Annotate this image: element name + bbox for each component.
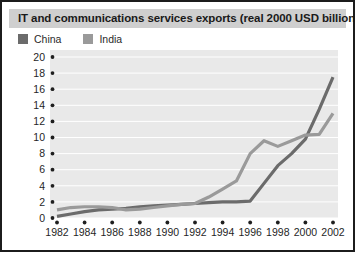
svg-text:1986: 1986 [101,226,125,238]
svg-text:8: 8 [39,147,45,159]
svg-text:6: 6 [39,163,45,175]
chart-canvas: 02468101214161820 1982198419861988199019… [9,50,348,246]
chart-figure: IT and communications services exports (… [0,0,355,252]
legend-label-china: China [34,33,61,45]
svg-text:1990: 1990 [156,226,180,238]
svg-text:14: 14 [33,99,45,111]
svg-text:18: 18 [33,67,45,79]
svg-text:0: 0 [39,212,45,224]
legend-item-china[interactable]: China [18,33,61,45]
svg-text:2000: 2000 [294,226,318,238]
legend-item-india[interactable]: India [83,33,122,45]
x-axis-labels: 1982198419861988199019921994199619982000… [45,226,345,238]
chart-legend: China India [9,28,346,50]
legend-swatch-china [18,34,28,44]
svg-text:1982: 1982 [45,226,69,238]
caption-strip [0,252,355,260]
svg-text:1988: 1988 [128,226,152,238]
svg-text:1998: 1998 [266,226,290,238]
svg-text:20: 20 [33,51,45,63]
svg-text:2002: 2002 [321,226,345,238]
svg-text:1996: 1996 [239,226,263,238]
legend-label-india: India [99,33,122,45]
plot-background [50,50,338,218]
svg-text:2: 2 [39,196,45,208]
y-axis-labels: 02468101214161820 [33,51,45,224]
chart-title: IT and communications services exports (… [9,9,346,28]
x-tick-marks [55,221,335,225]
svg-text:1992: 1992 [183,226,207,238]
svg-text:4: 4 [39,180,45,192]
svg-text:12: 12 [33,115,45,127]
svg-text:1994: 1994 [211,226,235,238]
svg-text:1984: 1984 [73,226,97,238]
plot-area: 02468101214161820 1982198419861988199019… [9,50,348,246]
legend-swatch-india [83,34,93,44]
svg-text:10: 10 [33,131,45,143]
svg-text:16: 16 [33,83,45,95]
